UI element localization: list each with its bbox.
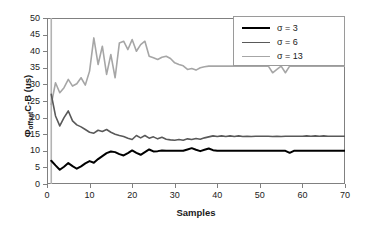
legend-swatch-sigma-13 [242, 56, 270, 57]
y-tick-mark [43, 118, 47, 119]
x-tick-label: 40 [205, 191, 229, 200]
legend-entry-sigma-13: σ = 13 [234, 49, 344, 63]
y-tick-mark [43, 51, 47, 52]
legend-entry-sigma-3: σ = 3 [234, 21, 344, 35]
x-axis-title: Samples [47, 207, 345, 218]
x-tick-label: 10 [78, 191, 102, 200]
legend-swatch-sigma-3 [242, 27, 270, 29]
x-tick-label: 20 [120, 191, 144, 200]
y-tick-mark [43, 134, 47, 135]
x-tick-label: 70 [333, 191, 357, 200]
chart-container: ΦoffsetC-B (us) 50454035302520151050 010… [0, 0, 366, 229]
legend-swatch-sigma-6 [242, 42, 270, 43]
x-tick-label: 30 [163, 191, 187, 200]
x-tick-mark [345, 184, 346, 188]
legend-label-sigma-6: σ = 6 [277, 37, 298, 47]
x-tick-mark [175, 184, 176, 188]
y-tick-mark [43, 68, 47, 69]
x-tick-mark [132, 184, 133, 188]
legend-label-sigma-3: σ = 3 [277, 23, 298, 33]
y-tick-mark [43, 35, 47, 36]
legend-entry-sigma-6: σ = 6 [234, 35, 344, 49]
series-line-3 [51, 148, 345, 170]
y-tick-mark [43, 84, 47, 85]
series-line-6 [51, 94, 345, 140]
chart-legend: σ = 3 σ = 6 σ = 13 [233, 16, 345, 66]
x-tick-mark [90, 184, 91, 188]
y-tick-mark [43, 167, 47, 168]
y-tick-mark [43, 18, 47, 19]
x-tick-mark [217, 184, 218, 188]
y-tick-mark [43, 101, 47, 102]
x-tick-mark [302, 184, 303, 188]
x-tick-label: 50 [248, 191, 272, 200]
legend-label-sigma-13: σ = 13 [277, 51, 303, 61]
x-tick-mark [260, 184, 261, 188]
x-tick-label: 60 [290, 191, 314, 200]
y-tick-mark [43, 151, 47, 152]
x-tick-mark [47, 184, 48, 188]
x-tick-label: 0 [35, 191, 59, 200]
